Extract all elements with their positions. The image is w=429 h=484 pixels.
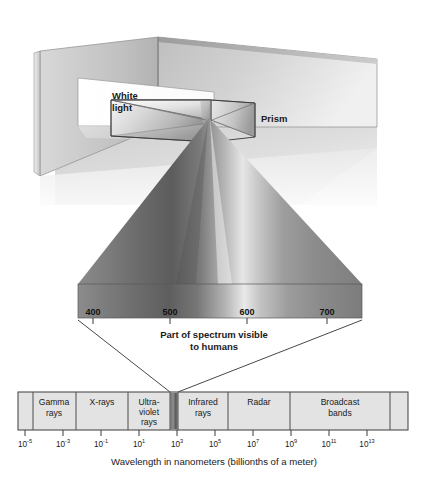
visible-tick-label-500: 500: [162, 307, 177, 317]
axis-tick-label-8: 1011: [322, 438, 337, 449]
axis-tick-label-1: 10-3: [56, 438, 70, 449]
white-light-label-line1: White: [112, 90, 138, 101]
axis-tick-label-4: 103: [171, 438, 183, 449]
em-spectrum-axis: 10-5 10-3 10-1 101 103 105 107 109 1011 …: [18, 430, 375, 467]
visible-tick-label-700: 700: [319, 307, 334, 317]
prism-spectrum-figure: 400 500 600 700 Part of spectrum visible…: [0, 0, 429, 484]
em-band-label-xrays: X-rays: [90, 397, 115, 407]
axis-tick-label-3: 101: [133, 438, 145, 449]
visible-spectrum-caption-line1: Part of spectrum visible: [160, 329, 268, 340]
room-left-wall-edge: [34, 51, 40, 176]
white-light-label-line2: light: [112, 102, 133, 113]
em-axis-caption: Wavelength in nanometers (billionths of …: [111, 456, 317, 467]
axis-tick-label-5: 105: [209, 438, 221, 449]
em-band-label-gamma-line1: Gamma: [39, 397, 70, 407]
connector-line-left: [78, 320, 170, 392]
axis-tick-label-0: 10-5: [18, 438, 32, 449]
axis-tick-label-7: 109: [285, 438, 297, 449]
em-band-visible-sliver: [170, 393, 178, 429]
em-band-label-infrared-line1: Infrared: [188, 397, 218, 407]
em-band-label-uv-line1: Ultra-: [138, 397, 159, 407]
visible-tick-label-600: 600: [239, 307, 254, 317]
figure-canvas: 400 500 600 700 Part of spectrum visible…: [0, 0, 429, 484]
em-band-label-uv-line2: violet: [139, 407, 160, 417]
em-band-label-gamma-line2: rays: [46, 408, 62, 418]
em-band-label-broadcast-line2: bands: [328, 408, 351, 418]
axis-tick-label-9: 1013: [359, 438, 374, 449]
visible-tick-label-400: 400: [85, 307, 100, 317]
em-band-label-radar: Radar: [247, 397, 271, 407]
em-band-label-broadcast-line1: Broadcast: [321, 397, 360, 407]
em-band-label-uv-line3: rays: [141, 417, 157, 427]
prism-label: Prism: [261, 113, 287, 124]
em-band-label-infrared-line2: rays: [195, 408, 211, 418]
axis-tick-label-6: 107: [247, 438, 259, 449]
visible-spectrum-caption-line2: to humans: [190, 341, 238, 352]
axis-tick-label-2: 10-1: [94, 438, 108, 449]
em-spectrum-band: Gamma rays X-rays Ultra- violet rays Inf…: [18, 392, 408, 430]
